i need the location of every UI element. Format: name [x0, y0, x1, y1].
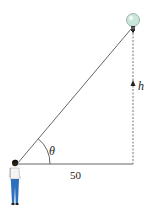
line-of-sight — [17, 29, 131, 164]
base-length-label: 50 — [70, 169, 82, 181]
arrow-up-icon — [131, 80, 136, 86]
angle-label: θ — [49, 144, 55, 158]
person-icon — [9, 160, 21, 205]
light-bulb-icon — [127, 14, 140, 33]
elevation-diagram: θ h 50 — [0, 0, 149, 219]
height-label: h — [138, 79, 144, 93]
